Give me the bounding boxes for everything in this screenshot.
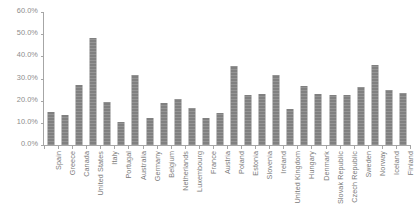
x-tick-mark xyxy=(382,145,383,149)
x-tick-mark xyxy=(241,145,242,149)
x-tick-mark xyxy=(171,145,172,149)
x-tick-mark xyxy=(128,145,129,149)
bar[interactable] xyxy=(231,66,238,145)
x-tick-mark xyxy=(157,145,158,149)
x-tick-mark xyxy=(368,145,369,149)
bar[interactable] xyxy=(273,75,280,145)
x-axis-category-label: Australia xyxy=(139,151,148,180)
x-tick-mark xyxy=(255,145,256,149)
x-tick-mark xyxy=(58,145,59,149)
x-tick-mark xyxy=(72,145,73,149)
bar-slot xyxy=(297,12,311,145)
bar-slot xyxy=(227,12,241,145)
x-tick-mark xyxy=(311,145,312,149)
x-axis-category-label: Slovenia xyxy=(265,151,274,179)
bar-slot xyxy=(396,12,410,145)
bar-slot xyxy=(199,12,213,145)
y-axis-tick-label: 30.0% xyxy=(17,73,38,82)
bar[interactable] xyxy=(399,93,406,145)
x-axis-category-label: Ireland xyxy=(279,151,288,174)
bar-slot xyxy=(213,12,227,145)
x-tick-mark xyxy=(100,145,101,149)
x-tick-mark xyxy=(396,145,397,149)
bar[interactable] xyxy=(259,94,266,145)
x-tick-mark xyxy=(86,145,87,149)
x-tick-mark xyxy=(199,145,200,149)
bar-chart: 0.0%10.0%20.0%30.0%40.0%50.0%60.0% Spain… xyxy=(0,0,416,213)
bar-slot xyxy=(185,12,199,145)
x-axis-category-label: Hungary xyxy=(307,151,316,179)
bar[interactable] xyxy=(118,122,125,145)
bar[interactable] xyxy=(146,118,153,145)
x-axis-category-label: Canada xyxy=(82,151,91,177)
bar[interactable] xyxy=(76,85,83,145)
x-axis-category-label: Sweden xyxy=(364,151,373,178)
bar[interactable] xyxy=(385,90,392,145)
bar[interactable] xyxy=(202,118,209,145)
x-axis-category-label: Spain xyxy=(54,151,63,170)
bar[interactable] xyxy=(62,115,69,145)
x-axis-category-label: Norway xyxy=(378,151,387,176)
x-axis-category-label: Finland xyxy=(406,151,415,175)
y-axis-tick-label: 40.0% xyxy=(17,50,38,59)
x-axis-category-label: Czech Republic xyxy=(350,151,359,203)
bar[interactable] xyxy=(216,113,223,145)
x-tick-mark xyxy=(227,145,228,149)
bar-slot xyxy=(157,12,171,145)
x-axis-category-label: United Kingdom xyxy=(293,151,302,204)
x-axis-category-label: Portugal xyxy=(124,151,133,179)
bar-slot xyxy=(340,12,354,145)
bar-slot xyxy=(72,12,86,145)
x-tick-mark xyxy=(185,145,186,149)
bar-slot xyxy=(241,12,255,145)
bar-slot xyxy=(86,12,100,145)
x-tick-mark xyxy=(340,145,341,149)
x-axis-category-label: Poland xyxy=(237,151,246,174)
bar[interactable] xyxy=(329,95,336,145)
bar-slot xyxy=(382,12,396,145)
x-axis-category-label: United States xyxy=(96,151,105,195)
x-axis-category-label: Luxembourg xyxy=(195,151,204,192)
bar-slot xyxy=(44,12,58,145)
x-tick-mark xyxy=(326,145,327,149)
bar[interactable] xyxy=(188,108,195,145)
x-tick-mark xyxy=(269,145,270,149)
x-axis-category-label: France xyxy=(209,151,218,174)
bar-slot xyxy=(283,12,297,145)
x-tick-mark xyxy=(297,145,298,149)
bar[interactable] xyxy=(371,65,378,145)
bar[interactable] xyxy=(301,86,308,145)
y-axis-tick-label: 10.0% xyxy=(17,117,38,126)
bar[interactable] xyxy=(245,95,252,145)
bar-slot xyxy=(100,12,114,145)
x-tick-mark xyxy=(283,145,284,149)
bar[interactable] xyxy=(104,102,111,145)
bar[interactable] xyxy=(48,112,55,145)
bar-slot xyxy=(58,12,72,145)
y-axis-tick-label: 0.0% xyxy=(21,139,38,148)
bar[interactable] xyxy=(357,87,364,145)
bar[interactable] xyxy=(315,94,322,145)
x-tick-mark xyxy=(410,145,411,149)
x-axis-category-label: Germany xyxy=(153,151,162,181)
bar[interactable] xyxy=(132,75,139,145)
bar[interactable] xyxy=(343,95,350,145)
bar-slot xyxy=(354,12,368,145)
bar[interactable] xyxy=(160,103,167,145)
y-axis-tick-label: 20.0% xyxy=(17,95,38,104)
x-tick-mark xyxy=(44,145,45,149)
bar-slot xyxy=(269,12,283,145)
x-axis-category-label: Denmark xyxy=(322,151,331,181)
x-tick-mark xyxy=(143,145,144,149)
x-tick-mark xyxy=(354,145,355,149)
x-axis-category-label: Austria xyxy=(223,151,232,174)
bar[interactable] xyxy=(287,109,294,145)
x-axis-category-label: Greece xyxy=(68,151,77,175)
bar-slot xyxy=(114,12,128,145)
bar[interactable] xyxy=(90,38,97,145)
y-axis-tick-label: 60.0% xyxy=(17,6,38,15)
x-tick-mark xyxy=(213,145,214,149)
bar-slot xyxy=(311,12,325,145)
bar[interactable] xyxy=(174,99,181,145)
x-axis-category-label: Iceland xyxy=(392,151,401,175)
